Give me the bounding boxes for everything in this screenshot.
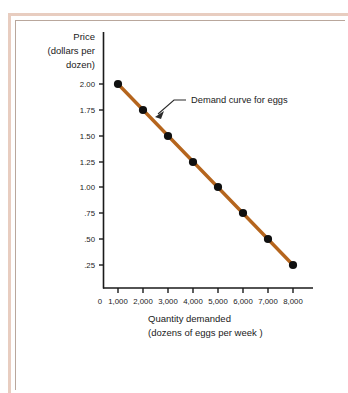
y-axis-title-line3: dozen) (66, 59, 95, 70)
data-point-marker (239, 209, 247, 217)
x-tick-label: 5,000 (208, 297, 228, 306)
y-tick-label: 1.75 (80, 106, 96, 115)
y-tick-label: 1.25 (80, 158, 96, 167)
data-point-marker (289, 261, 297, 269)
data-point-marker (139, 106, 147, 114)
x-tick-label: 2,000 (133, 297, 153, 306)
x-tick-label: 6,000 (233, 297, 253, 306)
annotation-label: Demand curve for eggs (191, 95, 288, 105)
y-tick-label: .25 (84, 261, 96, 270)
y-axis-ticks: 2.00 1.75 1.50 1.25 1.00 .75 .50 .25 (80, 80, 104, 270)
x-tick-label: 4,000 (183, 297, 203, 306)
y-tick-label: 2.00 (80, 80, 96, 89)
x-axis-title-line2: (dozens of eggs per week ) (148, 327, 263, 338)
y-axis-title-line1: Price (73, 31, 95, 42)
x-axis-title-line1: Quantity demanded (148, 313, 231, 324)
data-point-marker (114, 80, 122, 88)
y-tick-label: 1.00 (80, 183, 96, 192)
data-point-marker (214, 183, 222, 191)
x-tick-label: 8,000 (283, 297, 303, 306)
x-tick-label: 1,000 (108, 297, 128, 306)
data-point-marker (164, 132, 172, 140)
demand-curve-annotation: Demand curve for eggs (155, 95, 288, 119)
y-axis-title-line2: (dollars per (47, 45, 95, 56)
data-point-marker (264, 235, 272, 243)
data-point-marker (189, 158, 197, 166)
annotation-leader-line (158, 100, 186, 114)
y-axis-title: Price (dollars per dozen) (47, 31, 95, 70)
x-tick-label: 3,000 (158, 297, 178, 306)
x-axis-title: Quantity demanded (dozens of eggs per we… (148, 313, 263, 338)
y-tick-label: .50 (84, 235, 96, 244)
y-tick-label: .75 (84, 209, 96, 218)
x-tick-label: 7,000 (258, 297, 278, 306)
x-tick-label: 0 (98, 297, 103, 306)
y-tick-label: 1.50 (80, 132, 96, 141)
x-axis-ticks: 0 1,000 2,000 3,000 4,000 5,000 6,000 7,… (98, 288, 304, 306)
